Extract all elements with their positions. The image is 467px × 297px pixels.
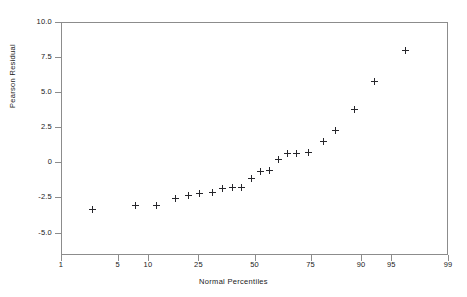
data-point-marker xyxy=(284,150,291,157)
x-axis-tick-label: 10 xyxy=(128,261,168,269)
data-point-marker xyxy=(305,149,312,156)
data-point-marker xyxy=(172,195,179,202)
data-point-marker xyxy=(248,175,255,182)
y-axis-tick-label: 0 xyxy=(8,158,52,166)
data-point-marker xyxy=(153,202,160,209)
data-point-layer xyxy=(61,22,448,255)
data-point-marker xyxy=(196,190,203,197)
data-point-marker xyxy=(266,167,273,174)
data-point-marker xyxy=(89,206,96,213)
data-point-marker xyxy=(275,156,282,163)
data-point-marker xyxy=(293,150,300,157)
y-axis-title: Pearson Residual xyxy=(8,44,17,108)
data-point-marker xyxy=(351,106,358,113)
data-point-marker xyxy=(320,138,327,145)
data-point-marker xyxy=(332,127,339,134)
data-point-marker xyxy=(402,47,409,54)
qq-plot-chart: 10.07.55.02.50-2.5-5.0 1510255075909599 … xyxy=(0,0,467,297)
data-point-marker xyxy=(257,168,264,175)
y-axis-tick-label: -5.0 xyxy=(8,229,52,237)
x-axis-tick-label: 99 xyxy=(428,261,467,269)
data-point-marker xyxy=(209,189,216,196)
y-axis-tick-label: 10.0 xyxy=(8,18,52,26)
x-axis-tick-label: 25 xyxy=(178,261,218,269)
x-axis-tick-label: 50 xyxy=(235,261,275,269)
data-point-marker xyxy=(185,192,192,199)
y-axis-tick-label: -2.5 xyxy=(8,193,52,201)
x-axis-tick-label: 75 xyxy=(291,261,331,269)
x-axis-tick-label: 95 xyxy=(371,261,411,269)
data-point-marker xyxy=(219,185,226,192)
x-axis-tick-label: 1 xyxy=(41,261,81,269)
data-point-marker xyxy=(238,184,245,191)
data-point-marker xyxy=(229,184,236,191)
x-axis-title: Normal Percentiles xyxy=(0,277,467,286)
data-point-marker xyxy=(371,78,378,85)
data-point-marker xyxy=(132,202,139,209)
y-axis-tick-label: 2.5 xyxy=(8,123,52,131)
